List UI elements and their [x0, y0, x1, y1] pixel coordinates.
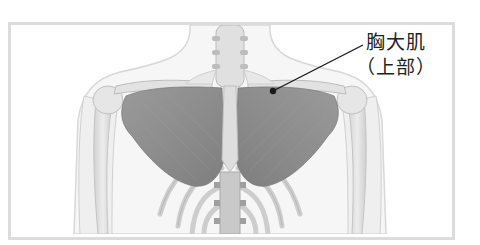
muscle-label-qualifier: （上部）	[356, 56, 436, 79]
thoracic-spine	[220, 172, 240, 234]
sternum	[222, 86, 238, 172]
pointer-dot	[270, 88, 276, 94]
cervical-spine	[216, 25, 244, 87]
muscle-label: 胸大肌	[366, 31, 426, 54]
